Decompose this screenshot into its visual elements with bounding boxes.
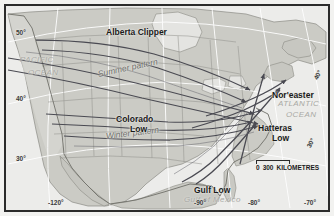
storm-label-alberta: Alberta Clipper [106, 28, 167, 37]
longitude-label-120w: -120° [48, 200, 64, 207]
storm-label-gulf-low: Gulf Low [194, 186, 230, 195]
longitude-label-80w: -80° [248, 200, 260, 207]
scale-distance-label: 300 [263, 164, 274, 171]
ocean-label-pacific-ocean: OCEAN [28, 69, 58, 77]
map-frame: PACIFIC OCEAN ATLANTIC OCEAN Gulf of Mex… [4, 4, 330, 212]
storm-label-hatteras-low: Low [272, 134, 289, 143]
ocean-label-atlantic: ATLANTIC [278, 100, 319, 108]
scale-unit-label: KILOMETRES [276, 164, 319, 171]
storm-track-map-figure: PACIFIC OCEAN ATLANTIC OCEAN Gulf of Mex… [0, 0, 334, 216]
longitude-label-70w: -70° [304, 200, 316, 207]
scale-bar-group: 0 300 KILOMETRES [256, 160, 319, 171]
ocean-label-pacific: PACIFIC [20, 56, 54, 64]
storm-label-hatteras: Hatteras [258, 124, 292, 133]
ocean-label-gulf-of-mexico: Gulf of Mexico [184, 196, 241, 204]
storm-label-colorado: Colorado [116, 115, 153, 124]
scale-zero-label: 0 [256, 164, 260, 171]
latitude-label-40n: 40° [16, 96, 26, 103]
longitude-label-90w: -90° [194, 200, 206, 207]
latitude-label-30n: 30° [16, 156, 26, 163]
ocean-label-atlantic-ocean: OCEAN [286, 111, 316, 119]
storm-label-noreaster: Nor'easter [272, 91, 314, 100]
storm-label-colorado-low: Low [130, 125, 147, 134]
latitude-label-50n: 50° [16, 30, 26, 37]
